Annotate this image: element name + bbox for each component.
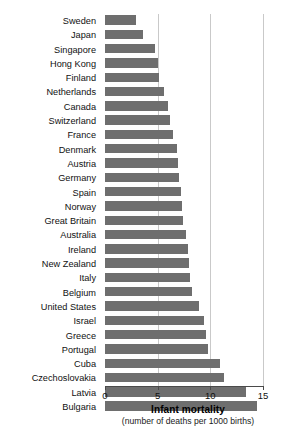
bar-row: [105, 371, 263, 385]
bar-row: [105, 329, 263, 343]
bar-row: [105, 71, 263, 85]
category-label: New Zealand: [0, 257, 101, 271]
category-label: Norway: [0, 200, 101, 214]
category-label: United States: [0, 300, 101, 314]
x-axis-subtitle: (number of deaths per 1000 births): [95, 416, 281, 427]
category-label: Canada: [0, 100, 101, 114]
tick-label-5: 5: [155, 390, 160, 401]
category-label: Latvia: [0, 386, 101, 400]
bar: [105, 30, 143, 39]
bar-row: [105, 100, 263, 114]
bar: [105, 101, 168, 110]
x-axis-title-block: Infant mortality (number of deaths per 1…: [95, 404, 281, 427]
bar: [105, 273, 190, 282]
category-label: France: [0, 128, 101, 142]
category-label: Ireland: [0, 243, 101, 257]
bar: [105, 187, 181, 196]
tick-label-0: 0: [102, 390, 107, 401]
tick-label-15: 15: [258, 390, 269, 401]
bar-row: [105, 85, 263, 99]
bar: [105, 58, 158, 67]
category-label: Denmark: [0, 143, 101, 157]
category-label: Sweden: [0, 14, 101, 28]
x-axis-tick-labels: 051015: [105, 390, 263, 403]
bar: [105, 258, 189, 267]
bar-row: [105, 357, 263, 371]
plot-area: [105, 14, 263, 386]
bar-row: [105, 114, 263, 128]
category-label: Belgium: [0, 286, 101, 300]
bar-row: [105, 228, 263, 242]
category-label: Netherlands: [0, 85, 101, 99]
bar-row: [105, 14, 263, 28]
category-label: Spain: [0, 186, 101, 200]
bar-row: [105, 43, 263, 57]
bar-row: [105, 171, 263, 185]
bar-row: [105, 271, 263, 285]
category-label: Bulgaria: [0, 400, 101, 414]
bar-row: [105, 57, 263, 71]
bar: [105, 230, 186, 239]
tick-label-10: 10: [205, 390, 216, 401]
bar-row: [105, 143, 263, 157]
category-label: Italy: [0, 271, 101, 285]
bar: [105, 373, 224, 382]
category-label: Austria: [0, 157, 101, 171]
bar: [105, 344, 208, 353]
category-label: Portugal: [0, 343, 101, 357]
bar: [105, 301, 199, 310]
category-label: Cuba: [0, 357, 101, 371]
bar: [105, 158, 178, 167]
bar: [105, 73, 159, 82]
bar-row: [105, 200, 263, 214]
category-label: Great Britain: [0, 214, 101, 228]
x-axis-title: Infant mortality: [95, 404, 281, 416]
bar: [105, 130, 173, 139]
category-axis-labels: SwedenJapanSingaporeHong KongFinlandNeth…: [0, 14, 101, 386]
bars-layer: [105, 14, 263, 386]
category-label: Finland: [0, 71, 101, 85]
category-label: Israel: [0, 314, 101, 328]
category-label: Czechoslovakia: [0, 371, 101, 385]
bar: [105, 15, 136, 24]
bar-row: [105, 243, 263, 257]
bar-row: [105, 214, 263, 228]
category-label: Japan: [0, 28, 101, 42]
bar-row: [105, 257, 263, 271]
category-label: Singapore: [0, 43, 101, 57]
bar: [105, 216, 183, 225]
bar-row: [105, 300, 263, 314]
bar-row: [105, 343, 263, 357]
infant-mortality-bar-chart: SwedenJapanSingaporeHong KongFinlandNeth…: [0, 0, 281, 442]
category-label: Switzerland: [0, 114, 101, 128]
category-label: Australia: [0, 228, 101, 242]
category-label: Greece: [0, 329, 101, 343]
bar: [105, 244, 188, 253]
bar: [105, 201, 182, 210]
bar-row: [105, 128, 263, 142]
bar: [105, 316, 204, 325]
bar-row: [105, 286, 263, 300]
bar: [105, 287, 192, 296]
category-label: Hong Kong: [0, 57, 101, 71]
bar-row: [105, 186, 263, 200]
bar: [105, 330, 206, 339]
bar: [105, 115, 170, 124]
bar: [105, 359, 220, 368]
bar-row: [105, 314, 263, 328]
bar: [105, 173, 179, 182]
bar-row: [105, 28, 263, 42]
gridline-15: [263, 14, 264, 386]
bar: [105, 144, 177, 153]
bar: [105, 44, 155, 53]
bar: [105, 87, 164, 96]
category-label: Germany: [0, 171, 101, 185]
bar-row: [105, 157, 263, 171]
